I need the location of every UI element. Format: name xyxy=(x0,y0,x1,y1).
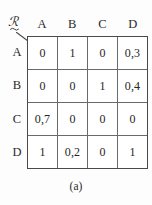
cell-d-c: 0 xyxy=(88,136,118,168)
table-row: 1 0,2 0 1 xyxy=(28,136,147,168)
table-row: 0 0 1 0,4 xyxy=(28,70,147,103)
column-header-d: D xyxy=(118,14,148,34)
table-row: 0,7 0 0 0 xyxy=(28,103,147,136)
matrix-row-header-column: A B C D xyxy=(8,36,26,169)
cell-d-a: 1 xyxy=(28,136,58,168)
cell-c-c: 0 xyxy=(88,103,118,135)
cell-d-d: 1 xyxy=(118,136,147,168)
cell-d-b: 0,2 xyxy=(58,136,88,168)
row-header-a: A xyxy=(8,36,26,69)
cell-b-c: 1 xyxy=(88,70,118,102)
row-header-d: D xyxy=(8,136,26,169)
row-header-c: C xyxy=(8,103,26,136)
figure-caption: (a) xyxy=(0,180,152,192)
table-row: 0 1 0 0,3 xyxy=(28,37,147,70)
cell-c-a: 0,7 xyxy=(28,103,58,135)
cell-a-a: 0 xyxy=(28,37,58,69)
cell-b-a: 0 xyxy=(28,70,58,102)
cell-b-b: 0 xyxy=(58,70,88,102)
column-header-a: A xyxy=(27,14,57,34)
cell-a-c: 0 xyxy=(88,37,118,69)
fuzzy-relation-matrix: 0 1 0 0,3 0 0 1 0,4 0,7 0 0 0 1 0,2 0 1 xyxy=(27,36,148,169)
column-header-c: C xyxy=(88,14,118,34)
column-header-b: B xyxy=(57,14,87,34)
fuzzy-relation-figure: ℛ A B C D A B C D 0 1 0 0,3 0 0 1 xyxy=(0,0,152,205)
cell-a-d: 0,3 xyxy=(118,37,147,69)
cell-c-b: 0 xyxy=(58,103,88,135)
cell-b-d: 0,4 xyxy=(118,70,147,102)
cell-c-d: 0 xyxy=(118,103,147,135)
row-header-b: B xyxy=(8,69,26,102)
matrix-column-header-row: A B C D xyxy=(27,14,148,34)
cell-a-b: 1 xyxy=(58,37,88,69)
svg-text:ℛ: ℛ xyxy=(8,14,20,29)
